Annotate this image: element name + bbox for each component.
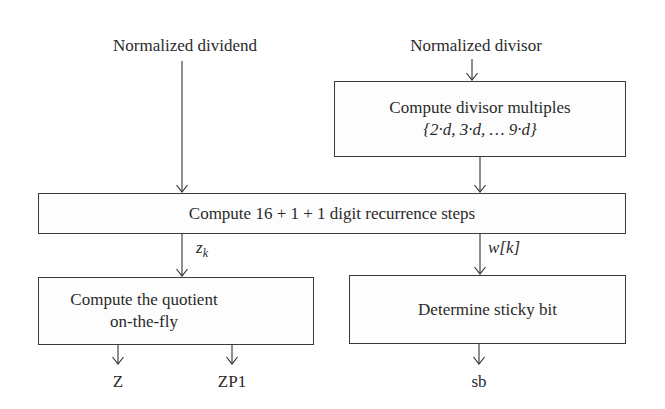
zk-edge-label: zk bbox=[196, 238, 208, 261]
recurrence-steps-box: Compute 16 + 1 + 1 digit recurrence step… bbox=[38, 193, 626, 234]
divisor-multiples-set: {2·d, 3·d, … 9·d} bbox=[423, 119, 537, 141]
output-zp1: ZP1 bbox=[218, 372, 246, 392]
quotient-subtitle: on-the-fly bbox=[39, 311, 249, 333]
quotient-title: Compute the quotient bbox=[39, 289, 249, 311]
zk-subscript: k bbox=[203, 246, 208, 260]
quotient-box: Compute the quotient on-the-fly bbox=[38, 277, 314, 345]
recurrence-steps-label: Compute 16 + 1 + 1 digit recurrence step… bbox=[189, 203, 475, 225]
divisor-input-label: Normalized divisor bbox=[410, 36, 542, 56]
output-sb: sb bbox=[471, 372, 486, 392]
zk-symbol: z bbox=[196, 238, 203, 257]
output-z: Z bbox=[113, 372, 123, 392]
wk-edge-label: w[k] bbox=[488, 238, 520, 258]
divisor-multiples-title: Compute divisor multiples bbox=[389, 97, 570, 119]
dividend-input-label: Normalized dividend bbox=[113, 36, 257, 56]
divisor-multiples-box: Compute divisor multiples {2·d, 3·d, … 9… bbox=[334, 81, 626, 157]
sticky-bit-label: Determine sticky bit bbox=[418, 299, 557, 321]
sticky-bit-box: Determine sticky bit bbox=[349, 275, 626, 344]
